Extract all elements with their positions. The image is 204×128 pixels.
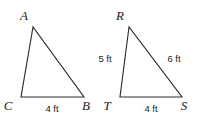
triangle-rts-side-label-1: 6 ft — [167, 53, 181, 64]
vertex-label-t: T — [103, 98, 111, 113]
triangle-rts-side-label-2: 4 ft — [144, 103, 158, 114]
triangle-abc-outline — [21, 27, 84, 97]
geometry-canvas: ACB4 ftRTS5 ft6 ft4 ft — [0, 0, 204, 128]
geometry-figure: ACB4 ftRTS5 ft6 ft4 ft — [0, 0, 204, 128]
vertex-label-b: B — [82, 98, 90, 113]
vertex-label-a: A — [19, 8, 28, 23]
vertex-label-s: S — [181, 98, 188, 113]
triangle-rts: RTS5 ft6 ft4 ft — [98, 8, 187, 114]
vertex-label-c: C — [4, 98, 13, 113]
triangle-rts-side-label-0: 5 ft — [98, 53, 112, 64]
vertex-label-r: R — [115, 8, 124, 23]
triangle-abc-side-label-0: 4 ft — [45, 103, 59, 114]
triangle-abc: ACB4 ft — [4, 8, 90, 114]
